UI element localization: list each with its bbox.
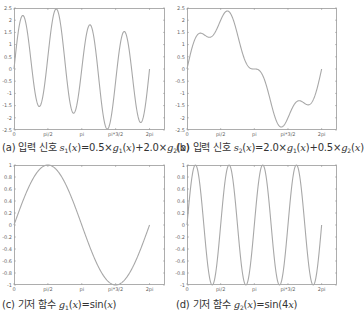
plot-area: 2.521.510.50-0.5-1-1.5-2-2.50pi/2pipi*3/… [187,8,337,130]
chart-panel-b: 2.521.510.50-0.5-1-1.5-2-2.50pi/2pipi*3/… [187,8,337,130]
y-tick-label: -2 [180,115,185,121]
plot-area: 10.80.60.40.20-0.2-0.4-0.6-0.8-10pi/2pip… [14,165,165,285]
y-tick-label: 0 [182,66,185,72]
x-tick-label: 0 [185,286,188,292]
x-tick-label: pi*3/2 [108,286,123,293]
y-tick-label: 2.5 [4,5,12,11]
x-tick-label: 0 [185,131,188,137]
axes-box [15,166,165,285]
y-tick-label: -1 [180,282,185,288]
y-tick-label: 1 [182,41,185,47]
y-tick-label: 2.5 [177,5,185,11]
x-tick-label: pi [252,131,257,138]
caption-part: )=0.5× [77,142,112,153]
y-tick-label: 0.6 [177,186,185,192]
y-tick-label: -0.5 [175,78,185,84]
caption-part: ) [360,142,364,153]
y-tick-label: 0 [9,66,12,72]
x-tick-label: pi [79,131,84,138]
y-tick-label: 0.5 [177,54,185,60]
y-tick-label: -2.5 [175,127,185,133]
y-tick-label: 0.5 [4,54,12,60]
x-tick-label: pi [79,286,84,293]
chart-caption-b: (b) 입력 신호 s2(x)=2.0×g1(x)+0.5×g2(x) [176,139,364,154]
y-tick-label: 0.2 [4,210,12,216]
y-tick-label: -0.4 [175,246,185,252]
y-tick-label: -2 [7,115,12,121]
axes-box [188,166,337,285]
caption-part: ) [294,299,298,310]
y-tick-label: -1 [7,282,12,288]
y-tick-label: 1 [9,162,12,168]
y-tick-label: 2 [9,17,12,23]
x-tick-label: 2pi [146,286,154,293]
y-tick-label: 0 [182,222,185,228]
y-tick-label: 1 [9,41,12,47]
x-tick-label: pi*3/2 [108,131,123,138]
y-tick-label: -0.5 [2,78,12,84]
y-tick-label: 0 [9,222,12,228]
signal-curve [14,9,150,129]
y-tick-label: -2.5 [2,127,12,133]
chart-caption-a: (a) 입력 신호 s1(x)=0.5×g1(x)+2.0×g2(x) [2,139,190,154]
caption-part: )+0.5× [306,142,341,153]
caption-part: ) [113,299,117,310]
x-tick-label: 0 [12,131,15,137]
y-tick-label: -0.6 [2,258,12,264]
chart-caption-d: (d) 기저 함수 g2(x)=sin(4x) [176,296,297,311]
y-tick-label: -1.5 [2,102,12,108]
x-tick-label: pi*3/2 [280,131,295,138]
signal-curve [187,11,322,127]
y-tick-label: -1 [180,90,185,96]
y-tick-label: -0.2 [2,234,12,240]
x-tick-label: pi/2 [216,286,225,293]
plot-area: 2.521.510.50-0.5-1-1.5-2-2.50pi/2pipi*3/… [14,8,165,130]
y-tick-label: 1.5 [4,29,12,35]
y-tick-label: -0.8 [2,270,12,276]
y-tick-label: -0.4 [2,246,12,252]
caption-part: )=sin(4 [253,299,288,310]
axes-box [188,9,337,130]
caption-part: )+2.0× [132,142,167,153]
x-tick-label: 2pi [318,131,326,138]
y-tick-label: -1 [7,90,12,96]
x-tick-label: pi/2 [216,131,225,138]
y-tick-label: 0.2 [177,210,185,216]
chart-caption-c: (c) 기저 함수 g1(x)=sin(x) [2,296,116,311]
y-tick-label: 0.8 [177,174,185,180]
y-tick-label: 1 [182,162,185,168]
signal-curve [14,165,150,285]
x-tick-label: pi/2 [43,131,52,138]
y-tick-label: 0.6 [4,186,12,192]
caption-label: (b) 입력 신호 [176,142,234,153]
caption-label: (a) 입력 신호 [2,142,59,153]
y-tick-label: -1.5 [175,102,185,108]
caption-label: (d) 기저 함수 [176,299,234,310]
caption-label: (c) 기저 함수 [2,299,59,310]
chart-panel-c: 10.80.60.40.20-0.2-0.4-0.6-0.8-10pi/2pip… [14,165,165,285]
x-tick-label: pi/2 [43,286,52,293]
y-tick-label: 0.8 [4,174,12,180]
x-tick-label: pi [252,286,257,293]
chart-panel-a: 2.521.510.50-0.5-1-1.5-2-2.50pi/2pipi*3/… [14,8,165,130]
y-tick-label: -0.8 [175,270,185,276]
y-tick-label: 0.4 [4,198,12,204]
y-tick-label: 1.5 [177,29,185,35]
plot-area: 10.80.60.40.20-0.2-0.4-0.6-0.8-10pi/2pip… [187,165,337,285]
x-tick-label: 0 [12,286,15,292]
x-tick-label: 2pi [146,131,154,138]
y-tick-label: -0.2 [175,234,185,240]
axes-box [15,9,165,130]
caption-part: )=sin( [78,299,107,310]
signal-curve [187,165,322,285]
caption-part: )=2.0× [251,142,286,153]
y-tick-label: 2 [182,17,185,23]
y-tick-label: 0.4 [177,198,185,204]
x-tick-label: pi*3/2 [280,286,295,293]
y-tick-label: -0.6 [175,258,185,264]
x-tick-label: 2pi [318,286,326,293]
chart-panel-d: 10.80.60.40.20-0.2-0.4-0.6-0.8-10pi/2pip… [187,165,337,285]
